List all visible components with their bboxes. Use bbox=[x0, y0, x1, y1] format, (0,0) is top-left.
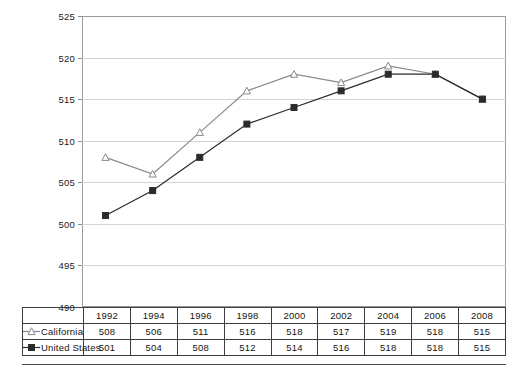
table-cell: 518 bbox=[412, 340, 459, 356]
table-row-header-united-states: United States bbox=[23, 340, 84, 356]
table-cell: 518 bbox=[412, 324, 459, 340]
table-cell: 508 bbox=[84, 324, 131, 340]
data-point-marker bbox=[385, 62, 392, 69]
y-axis-tick-label: 525 bbox=[59, 11, 75, 22]
table-header-year-2002: 2002 bbox=[318, 308, 365, 324]
y-axis-tick-label: 515 bbox=[59, 94, 75, 105]
series-line-united-states bbox=[106, 74, 483, 215]
data-point-marker bbox=[102, 154, 109, 161]
data-point-marker bbox=[244, 121, 250, 127]
table-cell: 517 bbox=[318, 324, 365, 340]
data-point-marker bbox=[479, 96, 485, 102]
table-header-year-1992: 1992 bbox=[84, 308, 131, 324]
series-layer bbox=[82, 16, 506, 307]
table-cell: 514 bbox=[271, 340, 318, 356]
y-axis-tick-label: 510 bbox=[59, 135, 75, 146]
y-axis-tick-label: 495 bbox=[59, 260, 75, 271]
legend-key bbox=[23, 343, 40, 352]
data-point-marker bbox=[338, 88, 344, 94]
table-cell: 516 bbox=[318, 340, 365, 356]
series-label: United States bbox=[41, 342, 101, 353]
data-point-marker bbox=[290, 71, 297, 78]
table-header-year-2000: 2000 bbox=[271, 308, 318, 324]
data-point-marker bbox=[103, 213, 109, 219]
table-header-year-2006: 2006 bbox=[412, 308, 459, 324]
data-point-marker bbox=[150, 188, 156, 194]
table-row: California508506511516518517519518515 bbox=[23, 324, 506, 340]
data-point-marker bbox=[432, 71, 438, 77]
table-header-year-2008: 2008 bbox=[459, 308, 506, 324]
table-header-year-1998: 1998 bbox=[224, 308, 271, 324]
table-cell: 515 bbox=[459, 324, 506, 340]
table-cell: 516 bbox=[224, 324, 271, 340]
data-point-marker bbox=[291, 104, 297, 110]
table-row: United States501504508512514516518518515 bbox=[23, 340, 506, 356]
chart-figure: 490495500505510515520525 199219941996199… bbox=[0, 0, 528, 373]
data-point-marker bbox=[197, 154, 203, 160]
table-cell: 508 bbox=[177, 340, 224, 356]
footer-rule bbox=[22, 364, 506, 365]
series-line-california bbox=[106, 66, 483, 174]
table-header-year-2004: 2004 bbox=[365, 308, 412, 324]
table-cell: 515 bbox=[459, 340, 506, 356]
legend-triangle-marker-icon bbox=[23, 327, 40, 336]
table-body: California508506511516518517519518515Uni… bbox=[23, 324, 506, 356]
data-table-wrapper: 199219941996199820002002200420062008 Cal… bbox=[22, 307, 506, 352]
y-axis-tick-label: 500 bbox=[59, 218, 75, 229]
table-cell: 512 bbox=[224, 340, 271, 356]
table-cell: 506 bbox=[130, 324, 177, 340]
table-cell: 504 bbox=[130, 340, 177, 356]
series-label: California bbox=[41, 326, 83, 337]
table-header-year-1994: 1994 bbox=[130, 308, 177, 324]
table-row-header-california: California bbox=[23, 324, 84, 340]
table-cell: 518 bbox=[365, 340, 412, 356]
table-cell: 511 bbox=[177, 324, 224, 340]
legend-square-marker-icon bbox=[23, 343, 40, 352]
table-header-row: 199219941996199820002002200420062008 bbox=[23, 308, 506, 324]
table-cell: 518 bbox=[271, 324, 318, 340]
data-table: 199219941996199820002002200420062008 Cal… bbox=[22, 307, 506, 356]
table-cell: 519 bbox=[365, 324, 412, 340]
data-point-marker bbox=[385, 71, 391, 77]
y-axis-tick-label: 520 bbox=[59, 52, 75, 63]
table-corner-cell bbox=[23, 308, 84, 324]
y-axis-tick-label: 505 bbox=[59, 177, 75, 188]
table-header-year-1996: 1996 bbox=[177, 308, 224, 324]
legend-key bbox=[23, 327, 40, 336]
plot-area: 490495500505510515520525 bbox=[82, 16, 506, 307]
